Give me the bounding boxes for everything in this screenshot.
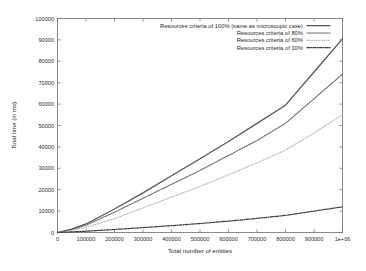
y-tick-label: 90000 (38, 37, 54, 43)
y-axis-title: Total time (in ms) (10, 102, 17, 149)
x-tick-label: 400000 (162, 236, 181, 242)
y-tick-label: 10000 (38, 208, 54, 214)
chart-legend: Resources criteria of 100% (same as micr… (160, 23, 330, 51)
y-tick-label: 20000 (38, 187, 54, 193)
y-tick-label: 40000 (38, 144, 54, 150)
x-tick-label: 300000 (134, 236, 153, 242)
y-tick-label: 80000 (38, 58, 54, 64)
data-series-layer (58, 39, 343, 233)
x-tick-label: 1e+06 (335, 236, 351, 242)
x-tick-label: 100000 (77, 236, 96, 242)
x-axis-tick-labels: 0100000200000300000400000500000600000700… (56, 236, 350, 242)
x-axis-title: Total number of entities (168, 247, 232, 254)
y-tick-label: 30000 (38, 165, 54, 171)
chart-container: 0100002000030000400005000060000700008000… (0, 0, 366, 271)
x-tick-label: 500000 (191, 236, 210, 242)
series-line-2 (58, 115, 343, 233)
legend-label-1: Resources criteria of 80% (237, 30, 303, 36)
x-tick-label: 200000 (105, 236, 124, 242)
x-tick-label: 0 (56, 236, 59, 242)
series-line-0 (58, 39, 343, 233)
y-tick-label: 0 (51, 230, 54, 236)
y-axis-tick-labels: 0100002000030000400005000060000700008000… (35, 16, 54, 236)
legend-label-3: Resources criteria of 10% (237, 45, 303, 51)
x-tick-label: 600000 (219, 236, 238, 242)
series-line-1 (58, 74, 343, 232)
x-tick-label: 800000 (276, 236, 295, 242)
x-tick-label: 700000 (248, 236, 267, 242)
y-tick-label: 50000 (38, 123, 54, 129)
x-tick-label: 900000 (305, 236, 324, 242)
legend-label-2: Resources criteria of 60% (237, 37, 303, 43)
y-tick-label: 60000 (38, 101, 54, 107)
legend-label-0: Resources criteria of 100% (same as micr… (160, 23, 303, 29)
series-line-3 (58, 207, 343, 233)
line-chart: 0100002000030000400005000060000700008000… (0, 0, 366, 271)
y-tick-label: 70000 (38, 80, 54, 86)
y-tick-label: 100000 (35, 16, 54, 22)
